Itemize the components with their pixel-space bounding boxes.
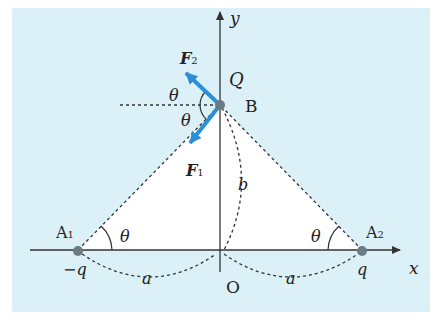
- charge-A1-label: −q: [63, 260, 87, 279]
- charge-A2: [357, 246, 367, 256]
- charge-B: [215, 100, 225, 110]
- charge-Q-label: Q: [229, 69, 244, 90]
- coulomb-force-diagram: y x O Q B A1 −q A2 q F2 F1 θ θ θ θ b a a: [0, 0, 444, 324]
- angle-label-B-upper: θ: [169, 86, 179, 105]
- x-axis-label: x: [409, 258, 419, 278]
- length-a-right-label: a: [286, 269, 296, 288]
- length-a-left-label: a: [142, 269, 152, 288]
- charge-A2-label: q: [357, 260, 367, 279]
- angle-label-B-lower: θ: [181, 111, 191, 130]
- angle-label-A2: θ: [311, 227, 321, 246]
- point-B-label: B: [245, 96, 258, 116]
- origin-label: O: [226, 277, 240, 297]
- y-axis-label: y: [229, 8, 240, 28]
- length-b-label: b: [238, 175, 248, 194]
- angle-label-A1: θ: [120, 227, 130, 246]
- charge-A1: [73, 246, 83, 256]
